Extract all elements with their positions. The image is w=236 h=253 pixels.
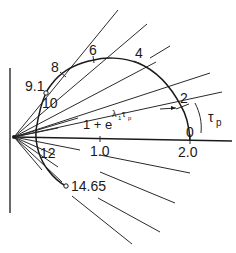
marker-14-65 [64, 184, 68, 188]
label-10: 10 [42, 95, 58, 111]
svg-text:p: p [128, 115, 132, 121]
label-9-1: 9.1 [25, 78, 45, 94]
label-6: 6 [89, 42, 97, 58]
axis-label-2-0: 2.0 [178, 144, 198, 160]
locus-diagram: 0 2 4 6 8 9.1 10 12 14.65 1.0 2.0 1 + e … [0, 0, 236, 253]
label-0: 0 [186, 124, 194, 140]
origin-point [12, 135, 16, 139]
label-14-65: 14.65 [71, 178, 106, 194]
svg-text:τ: τ [208, 109, 214, 125]
svg-text:1 + e: 1 + e [83, 117, 112, 132]
svg-text:λ: λ [112, 109, 117, 119]
label-4: 4 [135, 45, 143, 61]
axis-label-1-0: 1.0 [90, 143, 110, 159]
real-axis [14, 137, 232, 141]
label-2: 2 [180, 90, 188, 106]
svg-text:p: p [216, 117, 222, 128]
svg-text:τ: τ [122, 109, 126, 119]
label-8: 8 [51, 59, 59, 75]
label-12: 12 [40, 145, 56, 161]
tau-p-label: τ p [208, 109, 222, 128]
